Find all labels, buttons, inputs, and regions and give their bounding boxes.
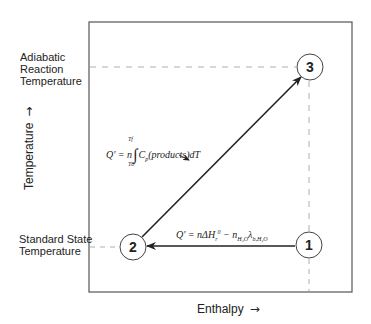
heating-equation-lhs: Q' = n: [106, 149, 132, 160]
standard-temperature-label: Standard State Temperature: [19, 233, 92, 257]
y-axis-label: Temperature→: [22, 70, 36, 190]
state-2-label: 2: [121, 235, 145, 259]
n-h2o-subscript: H₂O: [237, 236, 248, 242]
reaction-equation: Q' = nΔHr0 − nH₂Oλb,H₂O: [176, 229, 268, 242]
delta-h-subscript: r: [215, 236, 217, 242]
x-axis-arrow-icon: →: [250, 302, 260, 316]
minus-n: − n: [221, 229, 238, 240]
integral-lower-limit: T0: [128, 161, 134, 167]
integral-upper-limit: Tf: [128, 136, 133, 142]
lambda-subscript: b,H₂O: [252, 236, 267, 242]
standard-line-2: Temperature: [19, 245, 92, 257]
enthalpy-temperature-diagram: [0, 0, 371, 324]
standard-line-1: Standard State: [19, 233, 92, 245]
x-axis-label: Enthalpy→: [197, 303, 260, 315]
heating-equation: Q' = n∫TfT0Cp(products)dT: [106, 144, 200, 162]
y-axis-arrow-icon: →: [22, 107, 36, 117]
reaction-equation-lhs: Q' = nΔH: [176, 229, 215, 240]
y-axis-title: Temperature: [22, 123, 36, 190]
state-3-label: 3: [298, 55, 322, 79]
adiabatic-line-1: Adiabatic: [20, 51, 82, 63]
heating-equation-body: (products)dT: [148, 149, 200, 160]
x-axis-title: Enthalpy: [197, 302, 244, 316]
state-1-label: 1: [297, 233, 321, 257]
